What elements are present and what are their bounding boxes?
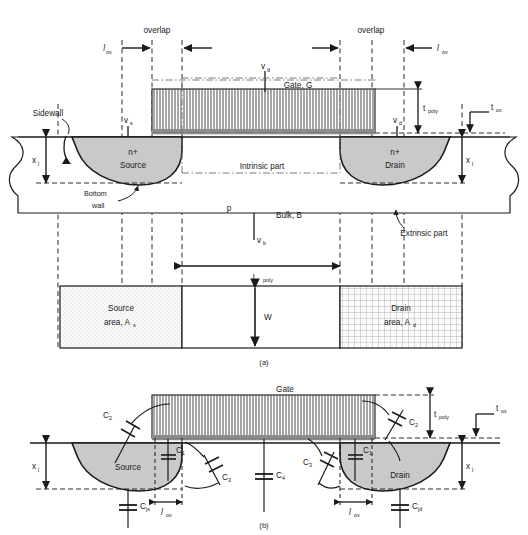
extrinsic-part-label: Extrinsic part (400, 229, 448, 238)
l-poly-label: L poly (253, 273, 273, 283)
capacitor-c3-left: C 3 (185, 442, 231, 488)
svg-text:s: s (133, 322, 136, 328)
svg-text:b: b (263, 240, 266, 246)
t-poly-label-b: t poly (434, 410, 449, 420)
bottom-wall-label-line2: wall (91, 201, 105, 210)
svg-text:Source: Source (120, 161, 146, 170)
svg-text:2: 2 (109, 415, 112, 421)
sidewall-label: Sidewall (33, 109, 64, 118)
t-ox-label-a: t ox (491, 103, 502, 113)
svg-text:L: L (253, 273, 258, 282)
svg-text:s: s (130, 120, 133, 126)
bulk-label: Bulk, B (276, 211, 302, 220)
svg-text:t: t (496, 404, 499, 413)
mosfet-figure: overlap l ov overlap l ov (0, 0, 528, 535)
bulk-p-label: p (227, 204, 232, 213)
intrinsic-part-label: Intrinsic part (240, 162, 285, 171)
svg-text:Drain: Drain (385, 161, 405, 170)
svg-text:3: 3 (228, 477, 231, 483)
panel-b: Gate Source Drain l ov l ov C 2 (30, 385, 507, 530)
svg-text:j: j (37, 160, 39, 166)
svg-text:j: j (37, 466, 39, 472)
vs-label: v s (124, 116, 133, 126)
svg-text:d: d (399, 120, 402, 126)
source-area-box (60, 286, 182, 348)
svg-text:n+: n+ (390, 148, 400, 157)
svg-text:x: x (32, 462, 36, 471)
vg-label: v g (261, 62, 270, 72)
svg-text:v: v (124, 116, 129, 125)
svg-text:1: 1 (182, 450, 185, 456)
svg-text:j: j (471, 466, 473, 472)
panel-a: overlap l ov overlap l ov (9, 26, 518, 367)
svg-text:3: 3 (309, 462, 312, 468)
svg-text:x: x (466, 156, 470, 165)
capacitor-c3-right: C 3 (303, 439, 340, 488)
svg-text:poly: poly (439, 414, 449, 420)
source-label-b: Source (115, 463, 141, 472)
svg-text:ox: ox (501, 408, 507, 414)
svg-text:x: x (32, 156, 36, 165)
vb-label: v b (257, 236, 266, 246)
svg-text:2: 2 (415, 422, 418, 428)
svg-text:Source: Source (108, 304, 134, 313)
svg-text:ox: ox (496, 107, 502, 113)
l-ov-left-a-label: l ov (103, 44, 112, 55)
w-label: W (264, 313, 272, 322)
svg-text:1: 1 (369, 450, 372, 456)
l-ov-right-label-b: l ov (349, 508, 360, 518)
t-ox-label-b: t ox (496, 404, 507, 414)
svg-text:area, A: area, A (384, 318, 410, 327)
svg-text:ov: ov (354, 512, 360, 518)
capacitor-cjs: C js (119, 489, 150, 528)
svg-text:js: js (145, 506, 150, 512)
channel-area-box (182, 286, 340, 348)
svg-text:t: t (423, 104, 426, 113)
svg-text:ov: ov (442, 49, 448, 55)
svg-text:v: v (261, 62, 266, 71)
svg-text:x: x (466, 462, 470, 471)
overlap-left-label: overlap (144, 26, 171, 35)
svg-text:Drain: Drain (391, 304, 411, 313)
svg-text:l: l (437, 44, 439, 53)
gate-bottom-bar (152, 129, 375, 132)
drain-area-box (340, 286, 462, 348)
gate-label-b: Gate (276, 385, 294, 394)
svg-text:l: l (103, 44, 105, 53)
sidewall-leader (62, 119, 69, 134)
l-ov-right-a-label: l ov (437, 44, 448, 55)
capacitor-cjd: C jd (391, 489, 422, 528)
gate-poly-block-b (152, 395, 375, 438)
svg-text:jd: jd (417, 506, 422, 512)
svg-text:n+: n+ (128, 148, 138, 157)
gate-label-a: Gate, G (284, 81, 313, 90)
xj-right-label-b: x j (466, 462, 473, 472)
capacitor-c4: C 4 (255, 439, 285, 512)
vd-label: v d (393, 116, 402, 126)
xj-left-label-b: x j (32, 462, 39, 472)
svg-text:t: t (434, 410, 437, 419)
panel-b-caption: (b) (259, 521, 269, 530)
svg-text:ov: ov (166, 512, 172, 518)
svg-text:ov: ov (106, 49, 112, 55)
svg-text:poly: poly (263, 277, 273, 283)
t-poly-label-a: t poly (423, 104, 438, 114)
svg-text:4: 4 (282, 475, 285, 481)
l-ov-left-label-b: l ov (161, 508, 172, 518)
svg-text:v: v (393, 116, 398, 125)
panel-a-caption: (a) (259, 358, 269, 367)
svg-text:l: l (349, 508, 351, 517)
svg-text:area, A: area, A (104, 318, 130, 327)
svg-text:l: l (161, 508, 163, 517)
svg-text:j: j (471, 160, 473, 166)
svg-text:poly: poly (428, 108, 438, 114)
overlap-right-label: overlap (358, 26, 385, 35)
drain-label-b: Drain (390, 471, 410, 480)
svg-text:t: t (491, 103, 494, 112)
bottom-wall-label-line1: Bottom (84, 189, 107, 198)
svg-text:g: g (267, 66, 270, 72)
gate-bottom-bar-b (152, 435, 375, 438)
svg-text:d: d (413, 322, 416, 328)
svg-text:v: v (257, 236, 262, 245)
gate-poly-block (152, 89, 375, 132)
